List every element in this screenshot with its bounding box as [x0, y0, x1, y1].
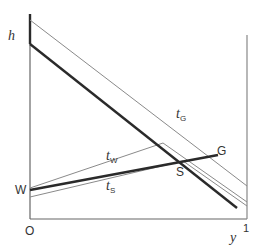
- x-axis-label: y: [230, 232, 236, 244]
- x-max-label: 1: [243, 222, 249, 234]
- tW-label: tW: [106, 150, 117, 167]
- point-G-label: G: [217, 145, 226, 157]
- wsg-line: [30, 155, 218, 190]
- y-axis-label: h: [8, 30, 15, 42]
- origin-label: O: [25, 225, 34, 237]
- tG-label: tG: [176, 108, 186, 125]
- tW-line: [30, 143, 247, 202]
- tW-sub: W: [110, 156, 118, 165]
- point-W-label: W: [15, 184, 26, 196]
- point-S-label: S: [176, 166, 184, 178]
- tS-sub: S: [110, 186, 115, 195]
- diagram-canvas: [0, 0, 258, 252]
- tS-label: tS: [106, 180, 115, 197]
- tG-sub: G: [180, 114, 186, 123]
- tG-line: [30, 20, 247, 186]
